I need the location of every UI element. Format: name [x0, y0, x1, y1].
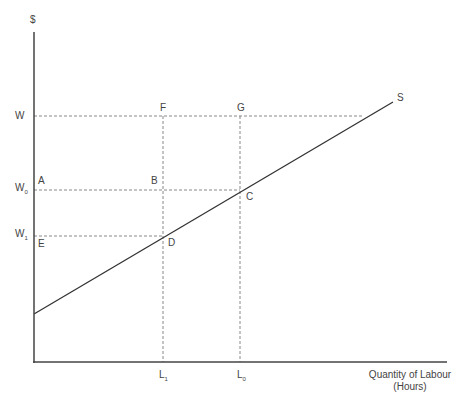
point-label-c: C: [246, 192, 253, 202]
wage-label-w: W: [15, 111, 24, 121]
point-label-d: D: [168, 238, 175, 248]
point-label-b: B: [151, 176, 158, 186]
point-label-g: G: [237, 103, 245, 113]
wage-label-w1: W1: [15, 229, 28, 239]
point-label-f: F: [160, 103, 166, 113]
x-axis-title-line1: Quantity of Labour: [355, 369, 460, 381]
supply-curve: [34, 102, 393, 314]
quantity-label-l0: L0: [237, 370, 246, 380]
x-axis-title-line2: (Hours): [355, 381, 460, 393]
x-axis-title: Quantity of Labour (Hours): [355, 369, 460, 393]
quantity-label-l1: L1: [159, 370, 168, 380]
diagram-canvas: [0, 0, 460, 403]
point-label-a: A: [38, 176, 45, 186]
y-axis-label: $: [30, 15, 36, 25]
point-label-e: E: [38, 239, 45, 249]
curve-label-s: S: [397, 93, 404, 103]
wage-label-w0: W0: [15, 183, 28, 193]
